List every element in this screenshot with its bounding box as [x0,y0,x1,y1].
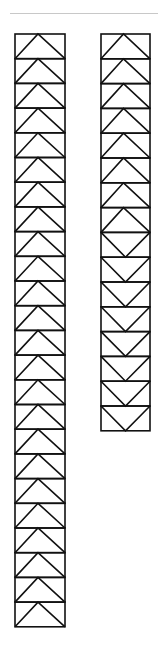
chevron-down-cell [101,282,150,307]
chevron-down-cell [101,257,150,282]
chevron-up-cell [15,182,65,207]
chevron-down-cell [101,406,150,431]
chevron-down-cell [101,232,150,257]
chevron-up-cell [15,83,65,108]
chevron-down-icon [101,356,150,381]
chevron-down-icon [101,332,150,357]
left-strip-svg [15,34,65,627]
chevron-down-icon [101,232,150,257]
right-chevron-strip [101,34,150,431]
chevron-down-cell [101,381,150,406]
chevron-up-cell [15,479,65,504]
chevron-up-icon [101,158,150,183]
chevron-up-cell [101,158,150,183]
chevron-up-cell [101,84,150,109]
chevron-up-cell [15,232,65,257]
chevron-up-icon [15,34,65,59]
chevron-up-cell [15,256,65,281]
chevron-up-cell [15,454,65,479]
chevron-up-icon [101,84,150,109]
chevron-up-cell [15,404,65,429]
chevron-up-cell [15,553,65,578]
chevron-up-cell [15,602,65,627]
chevron-up-icon [15,330,65,355]
chevron-up-icon [15,503,65,528]
chevron-up-cell [15,306,65,331]
chevron-up-cell [101,208,150,233]
chevron-up-icon [15,577,65,602]
chevron-up-icon [101,59,150,84]
chevron-down-cell [101,307,150,332]
chevron-up-cell [15,380,65,405]
chevron-up-cell [15,157,65,182]
chevron-down-icon [101,257,150,282]
chevron-up-cell [15,577,65,602]
chevron-up-cell [15,528,65,553]
chevron-up-cell [101,108,150,133]
chevron-up-cell [15,355,65,380]
left-chevron-strip [15,34,65,627]
chevron-up-cell [101,34,150,59]
chevron-up-cell [15,207,65,232]
chevron-up-icon [15,59,65,84]
chevron-up-icon [15,256,65,281]
chevron-up-icon [101,108,150,133]
chevron-up-icon [101,183,150,208]
chevron-up-icon [15,83,65,108]
chevron-up-icon [15,108,65,133]
chevron-up-icon [15,281,65,306]
chevron-up-cell [15,281,65,306]
chevron-up-icon [15,133,65,158]
chevron-up-icon [101,34,150,59]
chevron-up-cell [15,133,65,158]
chevron-down-icon [101,282,150,307]
chevron-up-cell [15,330,65,355]
chevron-up-icon [15,306,65,331]
chevron-up-cell [101,183,150,208]
top-divider-rule [10,13,158,14]
chevron-up-icon [15,207,65,232]
chevron-up-cell [15,59,65,84]
chevron-up-icon [15,553,65,578]
chevron-up-icon [15,528,65,553]
chevron-up-cell [15,34,65,59]
chevron-up-cell [101,59,150,84]
chevron-down-icon [101,406,150,431]
chevron-up-icon [15,232,65,257]
chevron-up-cell [15,429,65,454]
chevron-up-cell [15,503,65,528]
chevron-up-icon [15,479,65,504]
chevron-up-icon [15,182,65,207]
chevron-up-icon [101,208,150,233]
chevron-up-icon [15,355,65,380]
chevron-up-icon [15,429,65,454]
chevron-up-icon [15,602,65,627]
right-strip-svg [101,34,150,431]
chevron-up-cell [101,133,150,158]
chevron-down-icon [101,381,150,406]
chevron-down-icon [101,307,150,332]
chevron-up-cell [15,108,65,133]
chevron-up-icon [15,157,65,182]
chevron-up-icon [15,454,65,479]
chevron-up-icon [15,380,65,405]
chevron-up-icon [15,404,65,429]
chevron-down-cell [101,332,150,357]
chevron-down-cell [101,356,150,381]
chevron-up-icon [101,133,150,158]
